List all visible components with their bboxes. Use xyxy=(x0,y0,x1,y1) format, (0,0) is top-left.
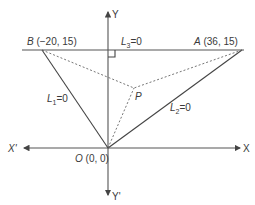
line-L2-label: L2=0 xyxy=(170,102,191,115)
x-neg-axis-label: X' xyxy=(7,143,18,154)
point-A-label: A (36, 15) xyxy=(193,36,238,47)
line-L2 xyxy=(108,50,242,148)
origin-label: O (0, 0) xyxy=(75,153,109,164)
point-B-label: B (−20, 15) xyxy=(27,36,77,47)
y-neg-axis-label: Y' xyxy=(112,191,121,202)
dotted-B-P xyxy=(42,50,134,88)
dotted-A-P xyxy=(134,50,242,88)
x-axis-label: X xyxy=(243,143,250,154)
y-axis-label: Y xyxy=(112,9,119,20)
line-L1-label: L1=0 xyxy=(47,93,68,106)
point-P-label: P xyxy=(135,91,142,102)
line-L3-label: L3=0 xyxy=(121,36,142,49)
coordinate-diagram: Y Y' X X' B (−20, 15) A (36, 15) P O (0,… xyxy=(0,0,255,205)
right-angle-mark xyxy=(108,50,115,57)
